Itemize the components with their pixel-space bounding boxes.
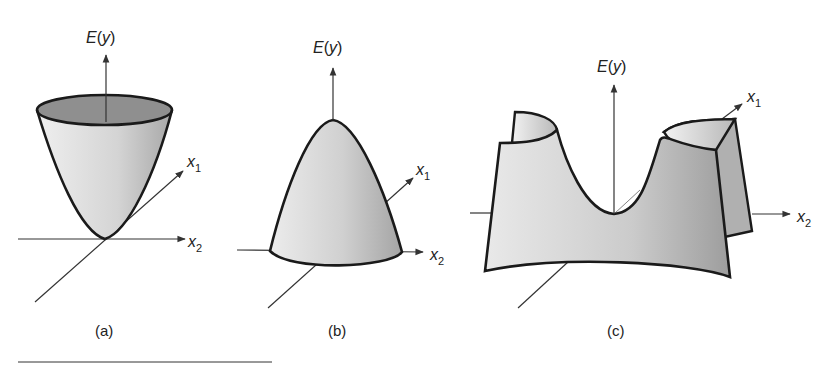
x1-label: x1	[746, 88, 761, 109]
x1-label: x1	[415, 161, 430, 182]
dome-surface	[270, 120, 402, 265]
caption-a: (a)	[95, 322, 113, 339]
panel-a: E(y) x1 x2 (a)	[18, 29, 202, 339]
ey-label: E(y)	[313, 39, 342, 56]
x1-label: x1	[186, 153, 201, 174]
panel-c: E(y) x1 x2 (c)	[470, 58, 811, 339]
figure-canvas: E(y) x1 x2 (a) E(y) x1 x2 (b)	[0, 0, 836, 374]
x2-label: x2	[429, 246, 444, 267]
x2-label: x2	[187, 233, 202, 254]
saddle-front-surface	[485, 130, 730, 277]
ey-label: E(y)	[86, 29, 115, 46]
caption-c: (c)	[607, 322, 625, 339]
caption-b: (b)	[328, 322, 346, 339]
bowl-opening	[37, 95, 172, 125]
x2-label: x2	[796, 208, 811, 229]
panel-b: E(y) x1 x2 (b)	[237, 39, 444, 339]
x1-axis-upper	[722, 104, 742, 119]
x1-axis-lower	[518, 262, 568, 308]
ey-label: E(y)	[597, 58, 626, 75]
